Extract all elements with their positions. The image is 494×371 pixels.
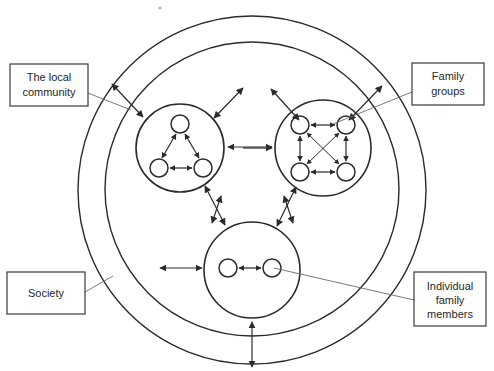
arrow-right-group-to-community-nw xyxy=(271,89,299,120)
nested-systems-diagram: The local community Family groups Societ… xyxy=(0,0,494,371)
label-local-community[interactable]: The local community xyxy=(10,64,88,106)
leader-family-groups xyxy=(333,92,412,124)
family-group-bottom xyxy=(204,222,300,318)
label-local-community-line-1: The local xyxy=(27,71,72,83)
ring-crossing-arrows xyxy=(112,84,382,367)
leader-individual-family-members xyxy=(274,268,414,300)
diagram-canvas: The local community Family groups Societ… xyxy=(0,0,494,371)
label-society[interactable]: Society xyxy=(7,272,85,314)
ring-group xyxy=(78,16,426,364)
node-bottom-left xyxy=(219,259,237,277)
label-individual-family-members-line-1: Individual xyxy=(427,280,473,292)
node-right-bottom-right xyxy=(337,163,355,181)
leader-local-community xyxy=(88,93,131,110)
node-left-top xyxy=(171,115,189,133)
label-individual-family-members[interactable]: Individual family members xyxy=(414,272,486,326)
arrow-left-group-to-community-ne xyxy=(214,88,243,118)
label-family-groups-line-2: groups xyxy=(431,85,465,97)
node-left-bottom-right xyxy=(194,159,212,177)
node-left-bottom-left xyxy=(150,159,168,177)
link-left-top-to-bottom-right xyxy=(185,134,199,158)
label-family-groups[interactable]: Family groups xyxy=(412,63,484,105)
society-ring-outer xyxy=(78,16,426,364)
label-family-groups-line-1: Family xyxy=(432,70,465,82)
node-right-bottom-left xyxy=(291,163,309,181)
family-group-left xyxy=(136,104,224,192)
page-speck xyxy=(158,6,161,9)
label-individual-family-members-line-3: members xyxy=(427,308,473,320)
arrow-community-to-bottom-group-nw xyxy=(212,196,221,223)
local-community-ring xyxy=(105,42,399,336)
family-group-bottom-circle xyxy=(204,222,300,318)
label-local-community-line-2: community xyxy=(22,86,76,98)
label-society-line-1: Society xyxy=(28,287,65,299)
link-left-top-to-bottom-left xyxy=(162,134,176,158)
inter-group-arrows xyxy=(205,147,296,226)
node-bottom-right xyxy=(263,259,281,277)
arrow-left-group-to-bottom-group xyxy=(205,186,225,225)
arrow-right-group-to-bottom-group xyxy=(277,187,296,226)
node-right-top-left xyxy=(291,116,309,134)
arrow-right-group-to-community-ne xyxy=(349,86,382,120)
family-group-left-circle xyxy=(136,104,224,192)
label-individual-family-members-line-2: family xyxy=(436,294,465,306)
